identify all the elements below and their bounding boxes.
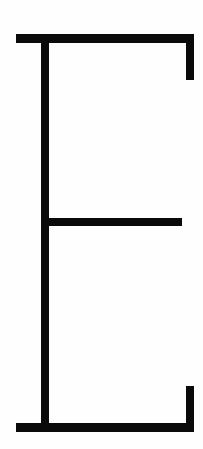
bottom-bar [16, 423, 194, 432]
middle-bar [41, 218, 182, 226]
letter-e-glyph [0, 0, 203, 449]
stem [41, 34, 49, 432]
top-serif [186, 34, 194, 80]
bottom-serif [186, 386, 194, 432]
